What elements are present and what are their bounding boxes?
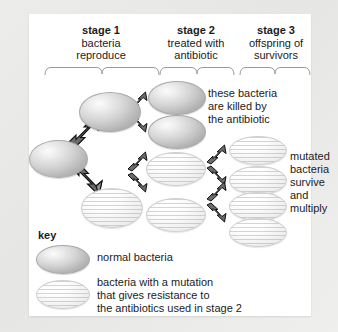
stage-3-label: stage 3	[237, 24, 315, 37]
stage-3-bracket	[239, 66, 311, 75]
annotation-survive-line-4: and	[290, 189, 338, 202]
stage-1-label: stage 1	[47, 24, 155, 37]
bacterium-s2-normal-1	[148, 81, 206, 115]
arrow-s2m2-to-s3m4	[205, 202, 229, 224]
arrow-s2m1-to-s3m1	[205, 143, 229, 165]
bacterium-s2-mutant-2	[146, 198, 206, 232]
key-mutant-line-1: bacteria with a mutation	[97, 276, 293, 289]
bacterium-gen2-upper	[79, 92, 141, 132]
stage-3-heading: stage 3 offspring of survivors	[237, 24, 315, 62]
annotation-killed-line-3: the antibiotic	[208, 113, 312, 126]
annotation-survive-line-1: mutated	[290, 150, 338, 163]
stage-3-desc-line-1: offspring of	[237, 37, 315, 50]
annotation-killed-line-1: these bacteria	[208, 87, 312, 100]
bacterium-s2-normal-2	[148, 115, 206, 149]
key-mutant-line-3: the antibiotics used in stage 2	[97, 302, 293, 315]
stage-1-desc-line-2: reproduce	[47, 49, 155, 62]
arrow-s2m2-to-s3m3	[205, 180, 229, 202]
annotation-killed-line-2: are killed by	[208, 100, 312, 113]
key-mutant-line-2: that gives resistance to	[97, 289, 293, 302]
stage-2-label: stage 2	[155, 24, 237, 37]
stage-2-bracket	[159, 66, 235, 75]
bacterium-s3-mutant-4	[229, 218, 287, 247]
bacterium-s2-mutant-1	[146, 152, 206, 186]
key-normal-line-1: normal bacteria	[97, 251, 277, 264]
annotation-survive-line-2: bacteria	[290, 163, 338, 176]
bacterium-gen2-lower	[81, 188, 143, 228]
bacterium-parent	[29, 140, 88, 178]
stage-2-desc-line-2: antibiotic	[155, 49, 237, 62]
annotation-mutated-survive: mutated bacteria survive and multiply	[290, 150, 338, 215]
stage-2-desc-line-1: treated with	[155, 37, 237, 50]
key-swatch-mutant-bacteria	[36, 280, 90, 309]
stage-1-desc-line-1: bacteria	[47, 37, 155, 50]
stage-1-bracket	[44, 66, 160, 75]
key-swatch-normal-bacteria	[36, 245, 90, 274]
bacterium-s3-mutant-2	[229, 166, 287, 195]
key-entry-normal-bacteria-label: normal bacteria	[97, 251, 277, 264]
diagram-canvas: stage 1 bacteria reproduce stage 2 treat…	[0, 0, 338, 332]
annotation-survive-line-5: multiply	[290, 202, 338, 215]
key-entry-mutant-bacteria-label: bacteria with a mutation that gives resi…	[97, 276, 293, 315]
bacterium-s3-mutant-1	[229, 136, 287, 165]
key-title: key	[38, 229, 56, 241]
stage-3-desc-line-2: survivors	[237, 49, 315, 62]
bacterium-s3-mutant-3	[229, 192, 287, 221]
stage-1-heading: stage 1 bacteria reproduce	[47, 24, 155, 62]
annotation-killed-by-antibiotic: these bacteria are killed by the antibio…	[208, 87, 312, 126]
annotation-survive-line-3: survive	[290, 176, 338, 189]
stage-2-heading: stage 2 treated with antibiotic	[155, 24, 237, 62]
